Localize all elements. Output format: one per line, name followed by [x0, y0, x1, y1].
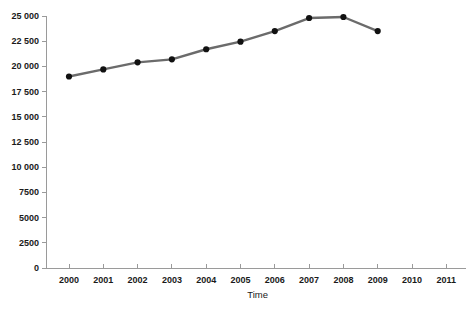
data-point-marker[interactable]: [169, 56, 175, 62]
chart-series: [66, 14, 381, 80]
data-point-marker[interactable]: [237, 39, 243, 45]
y-axis-tick-label: 22 500: [11, 36, 39, 46]
chart-plot-area: [0, 0, 470, 309]
y-axis-tick-label: 25 000: [11, 11, 39, 21]
line-chart: 25 00022 50020 00017 50015 00012 50010 0…: [0, 0, 470, 309]
data-point-marker[interactable]: [375, 28, 381, 34]
chart-axes: [42, 16, 466, 268]
data-point-marker[interactable]: [66, 73, 72, 79]
y-axis-tick-label: 2500: [19, 238, 39, 248]
data-point-marker[interactable]: [203, 46, 209, 52]
x-axis-tick-label: 2011: [426, 275, 466, 285]
y-axis-tick-label: 17 500: [11, 87, 39, 97]
x-axis-title: Time: [198, 289, 318, 300]
data-point-marker[interactable]: [340, 14, 346, 20]
y-axis-tick-label: 15 000: [11, 112, 39, 122]
data-point-marker[interactable]: [272, 28, 278, 34]
y-axis-tick-label: 0: [34, 263, 39, 273]
data-point-marker[interactable]: [100, 66, 106, 72]
y-axis-tick-label: 20 000: [11, 61, 39, 71]
series-line: [69, 17, 378, 76]
data-point-marker[interactable]: [306, 15, 312, 21]
y-axis-tick-label: 7500: [19, 187, 39, 197]
data-point-marker[interactable]: [135, 59, 141, 65]
y-axis-tick-label: 12 500: [11, 137, 39, 147]
y-axis-tick-label: 5000: [19, 213, 39, 223]
y-axis-tick-label: 10 000: [11, 162, 39, 172]
